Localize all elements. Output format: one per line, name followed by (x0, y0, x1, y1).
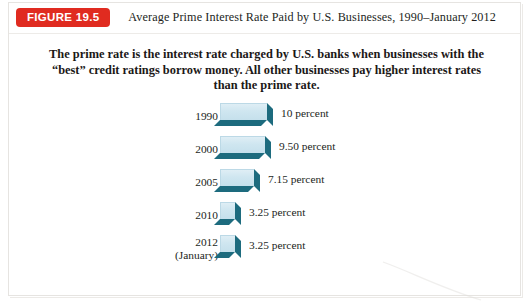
bar-side-shadow (265, 136, 271, 159)
bar-side-shadow (254, 169, 260, 192)
bar (220, 103, 273, 125)
year-label: 2005 (120, 176, 218, 189)
bar-side-shadow (235, 202, 241, 225)
bar-bottom-shadow (214, 153, 265, 159)
prime-rate-bar-chart: 199010 percent20009.50 percent20057.15 p… (0, 100, 531, 270)
figure-title: Average Prime Interest Rate Paid by U.S.… (128, 10, 496, 25)
figure-number-badge: FIGURE 19.5 (16, 8, 110, 28)
header-divider (9, 33, 520, 34)
chart-row: 20009.50 percent (0, 133, 531, 166)
chart-row: 2012(January)3.25 percent (0, 232, 531, 270)
caption-line-1: The prime rate is the interest rate char… (49, 47, 438, 61)
year-label-main: 2012 (195, 236, 218, 248)
bar-bottom-shadow (214, 219, 235, 225)
year-label: 2010 (120, 209, 218, 222)
bar-face (220, 235, 235, 252)
year-label-sub: (January) (120, 249, 218, 262)
value-label: 3.25 percent (249, 239, 305, 251)
bar (220, 202, 241, 224)
chart-row: 20103.25 percent (0, 199, 531, 232)
bar-face (220, 103, 267, 120)
figure-caption: The prime rate is the interest rate char… (45, 47, 488, 94)
bar (220, 136, 271, 158)
bar-side-shadow (267, 103, 273, 126)
bar-bottom-shadow (214, 186, 254, 192)
bar (220, 169, 260, 191)
value-label: 7.15 percent (268, 173, 324, 185)
bar-bottom-shadow (214, 252, 235, 258)
year-label-main: 2010 (195, 209, 218, 221)
bar (220, 235, 241, 257)
year-label-main: 2000 (195, 143, 218, 155)
figure-header: FIGURE 19.5 Average Prime Interest Rate … (9, 3, 520, 32)
year-label-main: 2005 (195, 176, 218, 188)
year-label: 2000 (120, 143, 218, 156)
bar-face (220, 202, 235, 219)
value-label: 10 percent (281, 107, 329, 119)
bar-face (220, 169, 254, 186)
bar-side-shadow (235, 235, 241, 258)
bar-face (220, 136, 265, 153)
year-label: 1990 (120, 110, 218, 123)
value-label: 9.50 percent (279, 140, 335, 152)
figure-container: FIGURE 19.5 Average Prime Interest Rate … (0, 0, 531, 308)
year-label: 2012(January) (120, 236, 218, 261)
chart-row: 199010 percent (0, 100, 531, 133)
value-label: 3.25 percent (249, 206, 305, 218)
chart-row: 20057.15 percent (0, 166, 531, 199)
bar-bottom-shadow (214, 120, 267, 126)
year-label-main: 1990 (195, 110, 218, 122)
